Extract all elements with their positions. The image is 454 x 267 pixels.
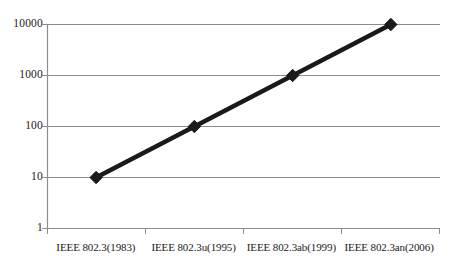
x-axis-tick-label: IEEE 802.3u(1995): [145, 240, 243, 260]
x-axis-tick-label: IEEE 802.3ab(1999): [243, 240, 341, 260]
x-axis-labels: IEEE 802.3(1983) IEEE 802.3u(1995) IEEE …: [47, 240, 438, 260]
x-axis-tick-label: IEEE 802.3(1983): [47, 240, 145, 260]
series-line: [96, 25, 391, 178]
plot-area: [0, 0, 454, 267]
x-axis-tick-label: IEEE 802.3an(2006): [340, 240, 438, 260]
chart-container: 10000 1000 100 10 1: [0, 0, 454, 267]
y-axis-ticks: [42, 25, 47, 229]
